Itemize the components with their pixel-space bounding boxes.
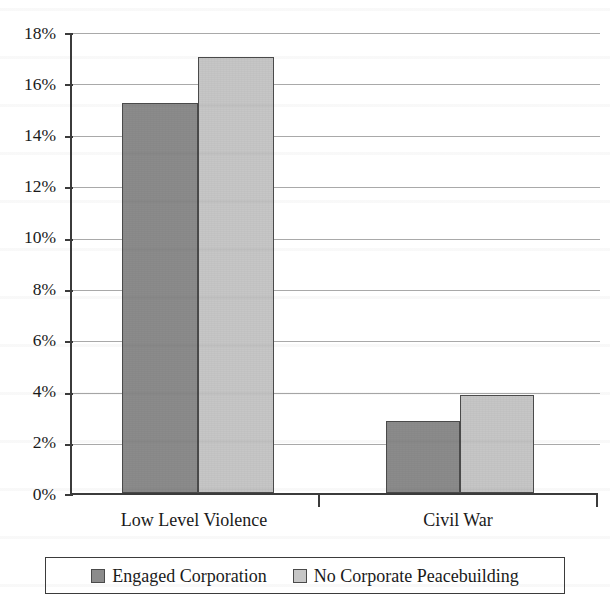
bar-chart: 18% 16% 14% 12% 10% 8% 6% 4% 2% 0% bbox=[0, 0, 610, 613]
y-tick-10 bbox=[65, 239, 73, 241]
y-tick-label-14: 14% bbox=[24, 127, 56, 145]
legend-label-engaged-corporation: Engaged Corporation bbox=[112, 567, 266, 585]
y-tick-8 bbox=[65, 290, 73, 292]
y-tick-label-6: 6% bbox=[33, 332, 56, 350]
y-tick-label-0: 0% bbox=[33, 486, 56, 504]
bar-civil-war-engaged-corporation bbox=[386, 421, 460, 493]
y-tick-18 bbox=[65, 33, 73, 35]
y-tick-4 bbox=[65, 393, 73, 395]
y-tick-label-8: 8% bbox=[33, 281, 56, 299]
legend-item-engaged-corporation: Engaged Corporation bbox=[91, 567, 266, 585]
legend-label-no-corporate-peacebuilding: No Corporate Peacebuilding bbox=[314, 567, 519, 585]
legend-swatch-icon-no-corporate-peacebuilding bbox=[293, 569, 307, 583]
y-tick-label-18: 18% bbox=[24, 25, 56, 43]
y-tick-14 bbox=[65, 136, 73, 138]
y-tick-12 bbox=[65, 187, 73, 189]
gridline-18 bbox=[72, 33, 600, 34]
bar-low-level-violence-no-corporate-peacebuilding bbox=[198, 57, 274, 493]
y-tick-label-2: 2% bbox=[33, 434, 56, 452]
chart-legend: Engaged Corporation No Corporate Peacebu… bbox=[45, 557, 565, 594]
plot-area bbox=[70, 33, 598, 495]
bar-low-level-violence-engaged-corporation bbox=[122, 103, 198, 493]
y-tick-label-10: 10% bbox=[24, 229, 56, 247]
y-tick-label-16: 16% bbox=[24, 76, 56, 94]
legend-item-no-corporate-peacebuilding: No Corporate Peacebuilding bbox=[293, 567, 519, 585]
legend-swatch-icon-engaged-corporation bbox=[91, 569, 105, 583]
y-tick-label-4: 4% bbox=[33, 383, 56, 401]
y-tick-2 bbox=[65, 444, 73, 446]
y-tick-6 bbox=[65, 341, 73, 343]
x-axis-end-tick bbox=[596, 495, 598, 507]
y-tick-16 bbox=[65, 84, 73, 86]
gridline-16 bbox=[72, 84, 600, 85]
x-category-label-low-level-violence: Low Level Violence bbox=[70, 511, 318, 529]
x-category-label-civil-war: Civil War bbox=[320, 511, 596, 529]
bar-civil-war-no-corporate-peacebuilding bbox=[460, 395, 534, 493]
x-axis-category-divider bbox=[318, 495, 320, 507]
y-tick-label-12: 12% bbox=[24, 178, 56, 196]
y-axis-labels: 18% 16% 14% 12% 10% 8% 6% 4% 2% 0% bbox=[0, 0, 70, 613]
y-tick-0 bbox=[65, 494, 73, 496]
